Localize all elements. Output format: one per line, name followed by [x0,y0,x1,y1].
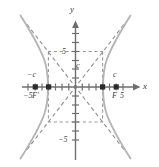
right-focus-name-label: F [112,92,117,100]
y-axis [72,21,79,161]
hyperbola-figure: x y −5 5 5 −5 −c c F′ F c [0,0,159,167]
dot-left-vertex [46,84,51,89]
left-focus-value-label: −c [27,71,36,79]
y-axis-arrowhead [72,21,79,29]
center-distance-label: c [76,61,80,70]
dot-right-vertex [100,84,105,89]
dot-left-focus [33,84,38,89]
dot-right-focus [114,84,119,89]
y-tick-label-positive-5: 5 [62,48,66,56]
right-focus-value-label: c [113,71,117,79]
x-axis-arrowhead [133,84,141,91]
x-tick-label-positive-5: 5 [120,92,124,100]
plot-canvas [0,0,159,167]
left-focus-name-label: F′ [32,92,39,100]
x-axis [22,84,141,91]
y-tick-label-negative-5: −5 [58,136,67,144]
x-tick-label-negative-5: −5 [23,92,32,100]
y-axis-label: y [70,5,74,14]
x-axis-label: x [143,82,147,91]
